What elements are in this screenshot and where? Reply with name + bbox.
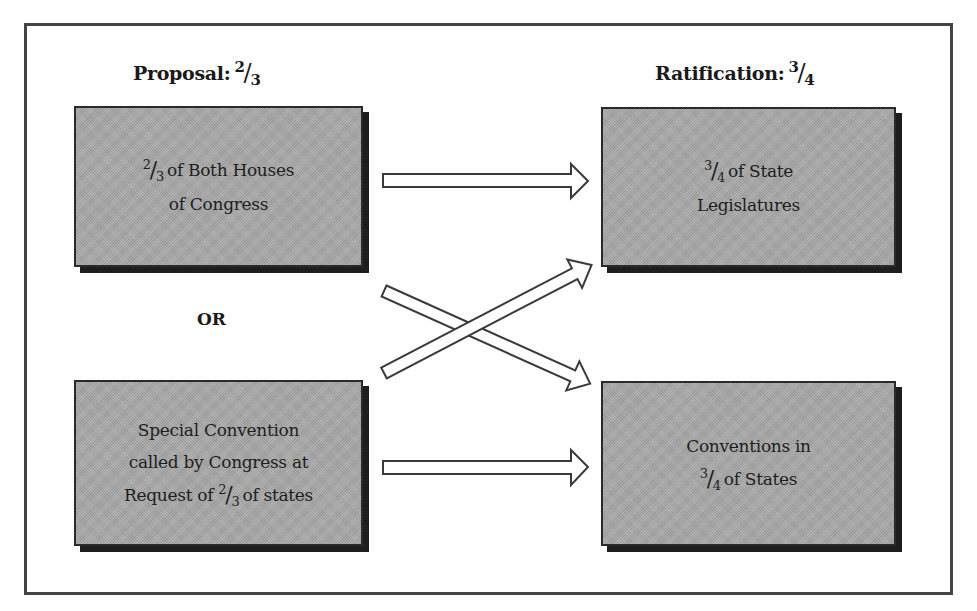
fraction-three-fourths: 3/4 bbox=[700, 462, 721, 497]
fraction-three-fourths: 3/4 bbox=[704, 154, 725, 189]
ratification-heading-label: Ratification: bbox=[655, 62, 784, 84]
ratification-fraction: 3/4 bbox=[788, 58, 814, 86]
box-conventions-in-states: Conventions in 3/4of States bbox=[601, 381, 896, 546]
fraction-two-thirds: 2/3 bbox=[143, 153, 164, 188]
box-both-houses-of-congress: 2/3of Both Houses of Congress bbox=[74, 106, 363, 267]
box-state-legislatures: 3/4of State Legislatures bbox=[601, 107, 896, 267]
proposal-heading: Proposal:2/3 bbox=[133, 58, 261, 86]
proposal-fraction: 2/3 bbox=[234, 58, 260, 86]
or-separator: OR bbox=[197, 309, 226, 329]
ratification-heading: Ratification:3/4 bbox=[655, 58, 814, 86]
proposal-heading-label: Proposal: bbox=[133, 62, 230, 84]
fraction-two-thirds: 2/3 bbox=[218, 478, 239, 513]
box-special-convention: Special Convention called by Congress at… bbox=[74, 380, 363, 546]
